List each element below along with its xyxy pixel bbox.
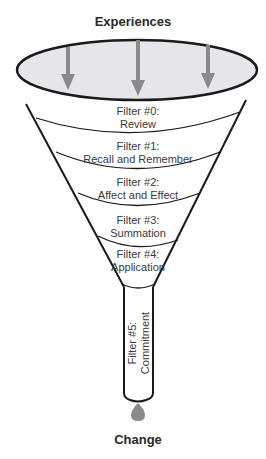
filter-3-label: Filter #3: Summation (96, 214, 180, 240)
filter-2-number: Filter #2: (76, 176, 200, 189)
filter-0-label: Filter #0: Review (86, 105, 190, 131)
filter-4-label: Filter #4: Application (106, 248, 170, 274)
change-label: Change (5, 432, 266, 447)
filter-5-number: Filter #5: (126, 312, 139, 374)
filter-1-label: Filter #1: Recall and Remember (66, 140, 210, 166)
filter-4-name: Application (106, 261, 170, 274)
filter-2-name: Affect and Effect (76, 189, 200, 202)
filter-3-number: Filter #3: (96, 214, 180, 227)
funnel-diagram: Experiences Filter #0: Review (0, 0, 266, 459)
band-divider-4 (122, 284, 155, 288)
filter-0-number: Filter #0: (86, 105, 190, 118)
filter-5-label: Filter #5: Commitment (126, 312, 152, 374)
filter-0-name: Review (86, 118, 190, 131)
filter-5-name: Commitment (139, 312, 152, 374)
filter-3-name: Summation (96, 227, 180, 240)
drop-icon (131, 403, 145, 421)
filter-4-number: Filter #4: (106, 248, 170, 261)
filter-1-number: Filter #1: (66, 140, 210, 153)
filter-2-label: Filter #2: Affect and Effect (76, 176, 200, 202)
filter-1-name: Recall and Remember (66, 153, 210, 166)
